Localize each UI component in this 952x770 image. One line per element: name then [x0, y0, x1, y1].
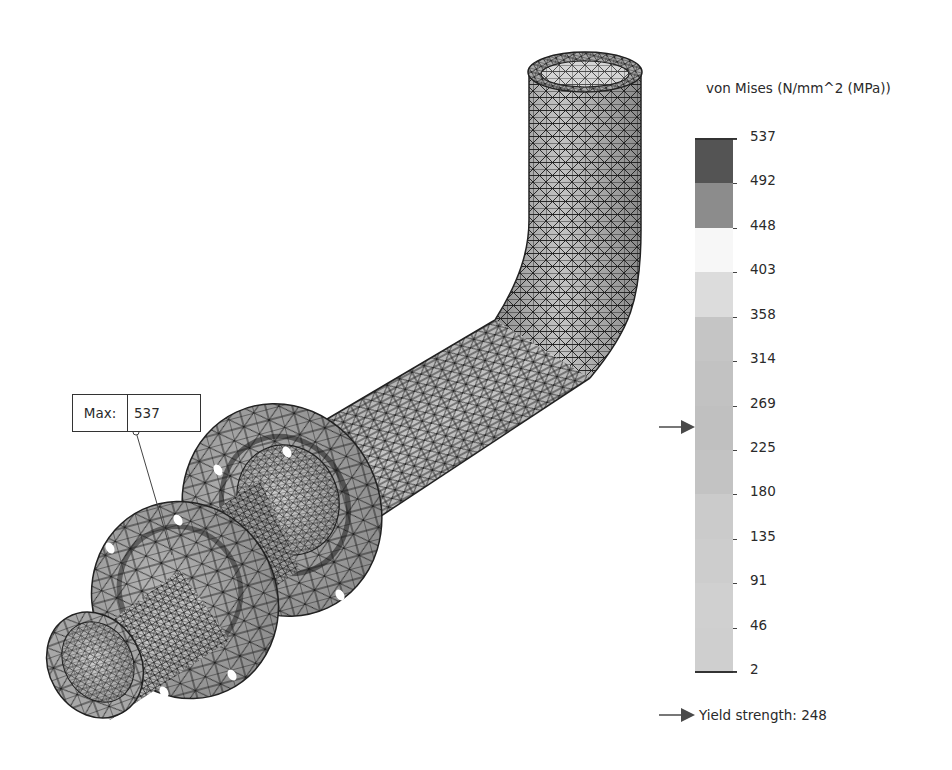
- legend-band: [695, 139, 733, 184]
- legend-tick-mark: [733, 272, 737, 273]
- legend-tick-label: 135: [750, 528, 776, 544]
- fea-result-viewport[interactable]: Max: 537 von Mises (N/mm^2 (MPa)) 537492…: [0, 0, 952, 770]
- max-probe-caption: Max:: [73, 395, 128, 431]
- legend-tick-label: 180: [750, 483, 776, 499]
- max-probe-label[interactable]: Max: 537: [72, 394, 201, 432]
- legend-tick-mark: [733, 672, 737, 673]
- legend-band: [695, 406, 733, 451]
- legend-tick-mark: [733, 539, 737, 540]
- legend-tick-label: 537: [750, 128, 776, 144]
- legend-tick-mark: [733, 139, 737, 140]
- legend-tick-mark: [733, 450, 737, 451]
- legend-tick-mark: [733, 317, 737, 318]
- legend-tick-label: 269: [750, 395, 776, 411]
- arrow-right-icon: [659, 708, 695, 722]
- legend-band: [695, 361, 733, 406]
- legend-top-edge: [695, 138, 737, 140]
- max-probe-value: 537: [128, 395, 200, 431]
- legend-band: [695, 317, 733, 362]
- legend-band: [695, 183, 733, 228]
- legend-tick-label: 492: [750, 172, 776, 188]
- pipe-vertical-segment: [495, 70, 641, 378]
- legend-tick-mark: [733, 583, 737, 584]
- yield-strength-legend: Yield strength: 248: [659, 705, 827, 725]
- legend-tick-label: 403: [750, 261, 776, 277]
- legend-tick-label: 448: [750, 217, 776, 233]
- legend-tick-mark: [733, 406, 737, 407]
- legend-tick-mark: [733, 228, 737, 229]
- legend-band: [695, 628, 733, 673]
- yield-strength-label: Yield strength: 248: [699, 707, 827, 723]
- legend-band: [695, 272, 733, 317]
- legend-band: [695, 228, 733, 273]
- legend-band: [695, 539, 733, 584]
- legend-tick-label: 358: [750, 306, 776, 322]
- legend-tick-mark: [733, 494, 737, 495]
- legend-band: [695, 583, 733, 628]
- legend-tick-label: 46: [750, 617, 767, 633]
- legend-bottom-edge: [695, 671, 737, 673]
- legend-band: [695, 494, 733, 539]
- pipe-top-opening: [528, 52, 642, 92]
- legend-tick-label: 2: [750, 661, 759, 677]
- legend-tick-label: 314: [750, 350, 776, 366]
- legend-tick-mark: [733, 183, 737, 184]
- yield-strength-marker-arrow-icon: [659, 420, 695, 434]
- color-scale-bar: [695, 139, 733, 672]
- legend-tick-mark: [733, 361, 737, 362]
- legend-tick-label: 91: [750, 572, 767, 588]
- legend-tick-mark: [733, 628, 737, 629]
- legend-title: von Mises (N/mm^2 (MPa)): [706, 80, 891, 96]
- legend-band: [695, 450, 733, 495]
- meshed-pipe-model[interactable]: [0, 0, 952, 770]
- legend-tick-label: 225: [750, 439, 776, 455]
